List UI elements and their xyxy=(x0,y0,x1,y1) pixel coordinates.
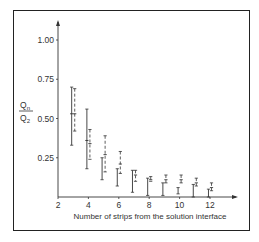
y-label-denominator: Q2 xyxy=(20,113,31,124)
x-tick-label: 8 xyxy=(147,200,152,210)
y-tick-label: 0.75 xyxy=(37,74,54,84)
x-tick-label: 12 xyxy=(205,200,215,210)
y-axis-label: Qn Q2 xyxy=(19,100,33,124)
errorbar-chart: 0.250.500.751.0024681012 Number of strip… xyxy=(0,0,259,242)
y-axis-arrow-icon xyxy=(56,20,60,26)
x-tick-label: 2 xyxy=(56,200,61,210)
x-tick-label: 10 xyxy=(175,200,185,210)
y-tick-label: 0.25 xyxy=(37,153,54,163)
axes: 0.250.500.751.0024681012 xyxy=(37,20,238,210)
series-solid xyxy=(70,87,210,197)
error-bars xyxy=(70,87,213,197)
series-dashed xyxy=(73,89,213,191)
x-tick-label: 6 xyxy=(116,200,121,210)
x-axis-arrow-icon xyxy=(232,195,238,199)
x-tick-label: 4 xyxy=(86,200,91,210)
x-axis-label: Number of strips from the solution inter… xyxy=(74,212,228,221)
y-tick-label: 1.00 xyxy=(37,35,54,45)
y-tick-label: 0.50 xyxy=(37,114,54,124)
y-label-numerator: Qn xyxy=(20,100,30,111)
